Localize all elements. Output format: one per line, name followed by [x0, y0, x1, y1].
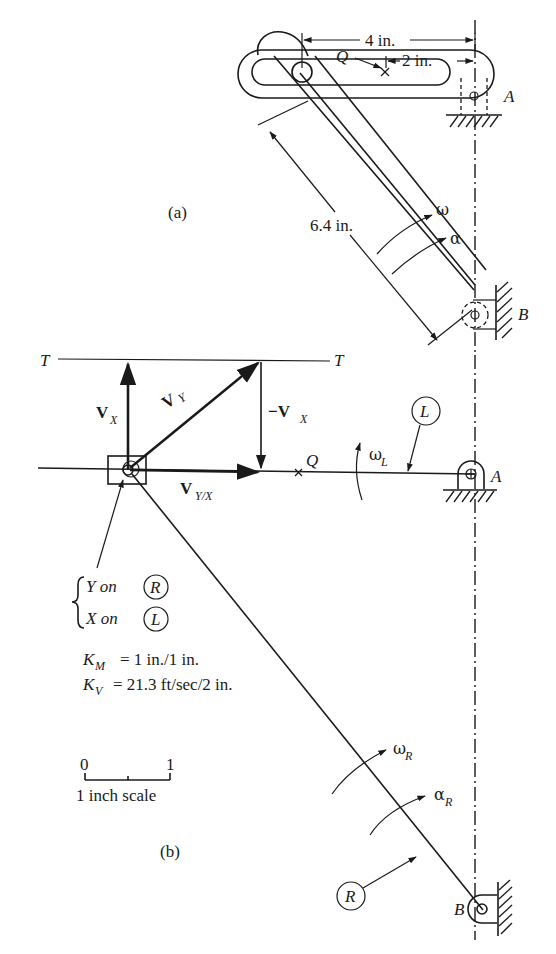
alpha-r-arrow: [370, 796, 425, 835]
km-sub: M: [94, 659, 106, 673]
point-q-marker-b: [295, 469, 302, 476]
alpha-label: α: [450, 229, 461, 248]
inch-scale-bar: [85, 773, 170, 780]
pivot-a-support: [446, 78, 502, 127]
km-value: = 1 in./1 in.: [120, 650, 199, 669]
dim-6-4-ext-top: [258, 101, 308, 125]
alpha-r-label: α: [434, 785, 445, 804]
km-symbol: K: [82, 650, 96, 669]
dim-6-4-lower: [350, 235, 437, 340]
vyx-label: V: [180, 479, 193, 498]
point-q-marker: [381, 68, 389, 76]
mechanism-diagram: Q 4 in. 2 in. A 6.4 in.: [0, 0, 556, 954]
legend-y-on: Y on: [86, 577, 117, 596]
vy-sub: Y: [176, 389, 190, 405]
legend-r-label: R: [149, 578, 161, 597]
pivot-b-label-a: B: [518, 305, 529, 324]
yx-leader-arrow: [97, 480, 123, 568]
omega-r-sub: R: [404, 749, 413, 763]
part-a-mechanism: Q 4 in. 2 in. A 6.4 in.: [168, 20, 529, 355]
dim-4in-label: 4 in.: [365, 31, 395, 50]
dim-6-4-ext-bottom: [428, 310, 472, 345]
pivot-b-support-a: [462, 282, 512, 340]
vx-sub: X: [109, 413, 118, 427]
link-r-callout-label: R: [344, 887, 356, 906]
dim-6-4-label: 6.4 in.: [310, 216, 353, 235]
omega-l-sub: L: [380, 455, 388, 469]
t-left-label: T: [40, 351, 51, 370]
legend-brace: [72, 577, 84, 628]
vyx-sub: Y/X: [195, 489, 213, 503]
slotted-link-outer: [238, 50, 494, 98]
legend-l-label: L: [150, 610, 160, 629]
line-t-t: [58, 359, 330, 361]
vx-label: V: [96, 403, 109, 422]
link-r-leader: [363, 857, 416, 888]
pivot-b-label-b: B: [454, 900, 465, 919]
alpha-r-sub: R: [444, 795, 453, 809]
link-l-leader: [408, 425, 420, 471]
part-b-velocity-diagram: T T V X V Y −V X V Y/X Q ω L: [38, 351, 512, 940]
kv-value: = 21.3 ft/sec/2 in.: [113, 675, 233, 694]
scale-end-label: 1: [166, 755, 175, 774]
alpha-arrow: [392, 238, 446, 274]
point-q-label-b: Q: [306, 451, 318, 470]
t-right-label: T: [334, 351, 345, 370]
point-q-label: Q: [336, 47, 348, 66]
rocker-arm-centerline: [300, 73, 475, 285]
omega-arrow: [377, 215, 432, 254]
rocker-arm-end: [258, 32, 308, 56]
kv-symbol: K: [82, 675, 96, 694]
scale-start-label: 0: [80, 755, 89, 774]
pivot-a-label-b: A: [490, 467, 502, 486]
kv-sub: V: [95, 684, 104, 698]
pivot-a-support-b: [443, 461, 497, 502]
part-b-label: (b): [160, 842, 180, 861]
neg-vx-label: −V: [268, 402, 291, 421]
neg-vx-sub: X: [299, 412, 308, 426]
omega-label: ω: [436, 200, 449, 219]
link-l-callout-label: L: [419, 402, 429, 421]
dim-2in-label: 2 in.: [402, 51, 432, 70]
pivot-a-label: A: [503, 87, 515, 106]
scale-caption: 1 inch scale: [76, 786, 156, 805]
legend-x-on: X on: [85, 609, 118, 628]
dim-6-4-upper: [270, 132, 335, 212]
part-a-label: (a): [168, 203, 187, 222]
vy-arrow: [130, 363, 258, 468]
omega-l-arrow: [356, 443, 362, 500]
